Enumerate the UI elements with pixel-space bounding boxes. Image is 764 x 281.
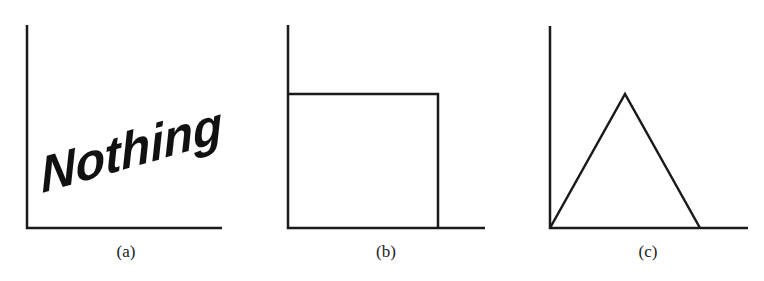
panel-c [550, 26, 748, 228]
panel-b [288, 25, 485, 228]
nothing-text: Nothing [39, 95, 225, 205]
caption-b: (b) [356, 242, 416, 262]
caption-c: (c) [618, 242, 678, 262]
panel-b-axes [288, 25, 485, 228]
panel-c-axes [550, 26, 748, 228]
caption-a: (a) [96, 242, 156, 262]
panel-a: Nothing [27, 25, 224, 228]
triangle-pulse [550, 94, 700, 228]
figure: Nothing [0, 0, 764, 281]
rectangle-pulse [288, 94, 438, 228]
